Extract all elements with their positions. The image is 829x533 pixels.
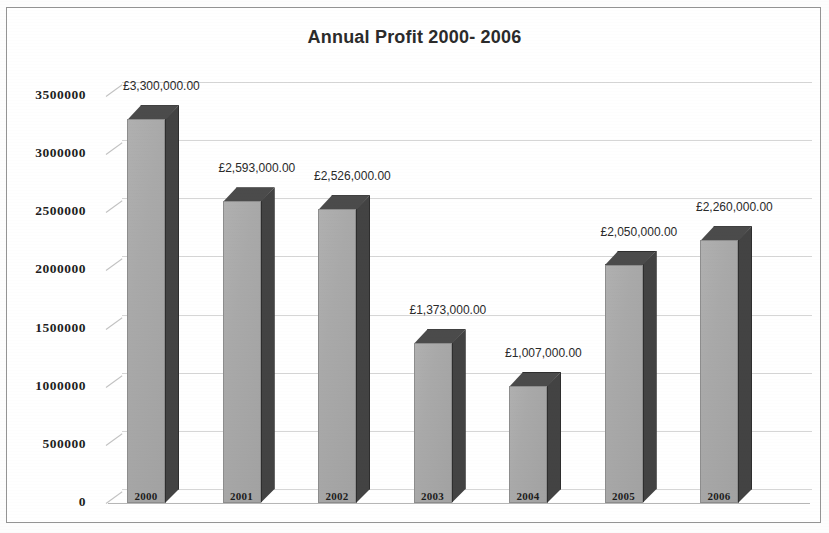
y-axis-tick-label: 1500000 xyxy=(0,320,86,336)
bar-value-label: £1,007,000.00 xyxy=(505,346,582,360)
bar-front-face xyxy=(127,119,165,503)
y-axis-tick-label: 2500000 xyxy=(0,203,86,219)
axis-baseline xyxy=(108,503,810,504)
y-axis-tick-label: 500000 xyxy=(0,436,86,452)
depth-connector xyxy=(106,142,123,155)
bar-value-label: £3,300,000.00 xyxy=(123,79,200,93)
bar-column[interactable] xyxy=(127,105,179,503)
x-axis-category-label: 2001 xyxy=(223,490,261,502)
bar-front-face xyxy=(605,265,643,503)
depth-connector xyxy=(106,201,123,214)
bar-value-label: £2,526,000.00 xyxy=(314,169,391,183)
bar-column[interactable] xyxy=(700,226,752,503)
y-axis-tick-label: 2000000 xyxy=(0,261,86,277)
x-axis-category-label: 2000 xyxy=(127,490,165,502)
bar-side-face xyxy=(165,105,179,503)
bar-side-face xyxy=(547,372,561,503)
x-axis-category-label: 2005 xyxy=(605,490,643,502)
bar-column[interactable] xyxy=(223,187,275,503)
x-axis-category-label: 2002 xyxy=(318,490,356,502)
x-axis-category-label: 2006 xyxy=(700,490,738,502)
bar-side-face xyxy=(261,187,275,503)
bar-column[interactable] xyxy=(318,195,370,503)
chart-figure: Annual Profit 2000- 2006 050000010000001… xyxy=(0,0,829,533)
bar-value-label: £1,373,000.00 xyxy=(410,303,487,317)
y-axis-tick-label: 3000000 xyxy=(0,145,86,161)
bar-front-face xyxy=(414,343,452,503)
bar-front-face xyxy=(318,209,356,503)
bar-value-label: £2,593,000.00 xyxy=(219,161,296,175)
bar-side-face xyxy=(738,226,752,503)
bar-column[interactable] xyxy=(605,251,657,503)
bar-front-face xyxy=(223,201,261,503)
plot-area: 0500000100000015000002000000250000030000… xyxy=(0,0,829,533)
gridline-back xyxy=(122,140,812,141)
depth-connector xyxy=(106,259,123,272)
y-axis-tick-label: 3500000 xyxy=(0,87,86,103)
gridline-back xyxy=(122,82,812,83)
depth-connector xyxy=(106,84,123,97)
x-axis-category-label: 2004 xyxy=(509,490,547,502)
bar-value-label: £2,050,000.00 xyxy=(601,225,678,239)
bar-side-face xyxy=(452,329,466,503)
y-axis-tick-label: 1000000 xyxy=(0,378,86,394)
depth-connector xyxy=(106,375,123,388)
bar-value-label: £2,260,000.00 xyxy=(696,200,773,214)
x-axis-category-label: 2003 xyxy=(414,490,452,502)
bar-column[interactable] xyxy=(509,372,561,503)
bar-front-face xyxy=(509,386,547,503)
depth-connector xyxy=(106,317,123,330)
depth-connector xyxy=(106,433,123,446)
bar-front-face xyxy=(700,240,738,503)
y-axis-tick-label: 0 xyxy=(0,494,86,510)
bar-side-face xyxy=(643,251,657,503)
bar-column[interactable] xyxy=(414,329,466,503)
bar-side-face xyxy=(356,195,370,503)
